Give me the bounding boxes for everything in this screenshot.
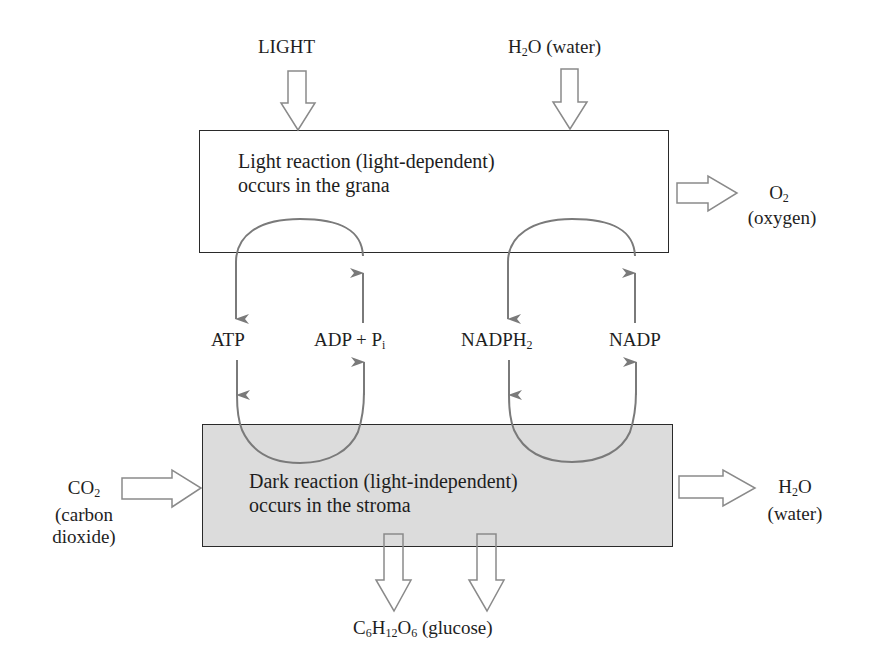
adp-text: ADP + P <box>314 329 382 350</box>
co2-formula-co: CO <box>68 477 94 498</box>
oxygen-name: (oxygen) <box>742 207 822 229</box>
nadph-sub: 2 <box>526 338 532 352</box>
co2-formula: CO2 <box>44 477 124 499</box>
light-reaction-text: Light reaction (light-dependent) occurs … <box>238 149 495 197</box>
co2-name-line2: dioxide) <box>44 526 124 548</box>
water-output-o: O <box>798 476 812 497</box>
water-output-name: (water) <box>755 503 835 525</box>
dark-reaction-text: Dark reaction (light-independent) occurs… <box>249 469 518 517</box>
oxygen-formula-sub: 2 <box>783 191 789 205</box>
pi-sub: i <box>382 338 385 352</box>
co2-formula-sub: 2 <box>94 486 100 500</box>
glucose-output-label: C6H12O6 (glucose) <box>353 617 493 639</box>
water-output-h: H <box>778 476 792 497</box>
dark-reaction-title: Dark reaction (light-independent) <box>249 469 518 493</box>
light-input-label: LIGHT <box>258 36 315 58</box>
water-formula-h: H <box>508 36 522 57</box>
water-input-label: H2O (water) <box>508 36 601 58</box>
glucose-h-sub: 12 <box>385 626 397 640</box>
light-reaction-location: occurs in the grana <box>238 173 495 197</box>
oxygen-output-label: O2 (oxygen) <box>742 182 822 229</box>
glucose-o: O <box>397 617 411 638</box>
adp-pi-label: ADP + Pi <box>314 329 385 351</box>
nadph-text: NADPH <box>461 329 526 350</box>
diagram-graphics <box>0 0 872 670</box>
atp-label: ATP <box>211 329 245 351</box>
light-reaction-title: Light reaction (light-dependent) <box>238 149 495 173</box>
dark-reaction-location: occurs in the stroma <box>249 493 518 517</box>
co2-name-line1: (carbon <box>44 504 124 526</box>
light-reaction-box: Light reaction (light-dependent) occurs … <box>199 130 669 253</box>
glucose-c: C <box>353 617 366 638</box>
oxygen-formula: O2 <box>736 182 822 204</box>
water-input-name: (water) <box>541 36 601 57</box>
co2-input-label: CO2 (carbon dioxide) <box>44 477 124 548</box>
water-formula-o: O <box>528 36 542 57</box>
water-output-label: H2O (water) <box>755 476 835 525</box>
dark-reaction-box: Dark reaction (light-independent) occurs… <box>202 424 673 547</box>
glucose-h: H <box>372 617 386 638</box>
oxygen-formula-o: O <box>769 182 783 203</box>
glucose-name: (glucose) <box>417 617 492 638</box>
water-output-formula: H2O <box>755 476 835 498</box>
nadp-label: NADP <box>609 329 661 351</box>
nadph2-label: NADPH2 <box>461 329 532 351</box>
